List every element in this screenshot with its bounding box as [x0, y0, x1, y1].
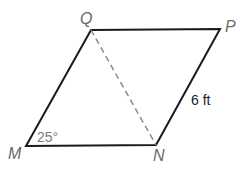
diagonal-qn — [91, 30, 156, 145]
vertex-label-p: P — [225, 18, 236, 35]
parallelogram-diagram: Q P M N 25° 6 ft — [0, 0, 248, 175]
side-length-label-np: 6 ft — [191, 92, 211, 108]
angle-label-m: 25° — [37, 129, 58, 145]
vertex-label-q: Q — [80, 10, 92, 27]
vertex-label-n: N — [153, 147, 165, 164]
vertex-label-m: M — [8, 145, 22, 162]
